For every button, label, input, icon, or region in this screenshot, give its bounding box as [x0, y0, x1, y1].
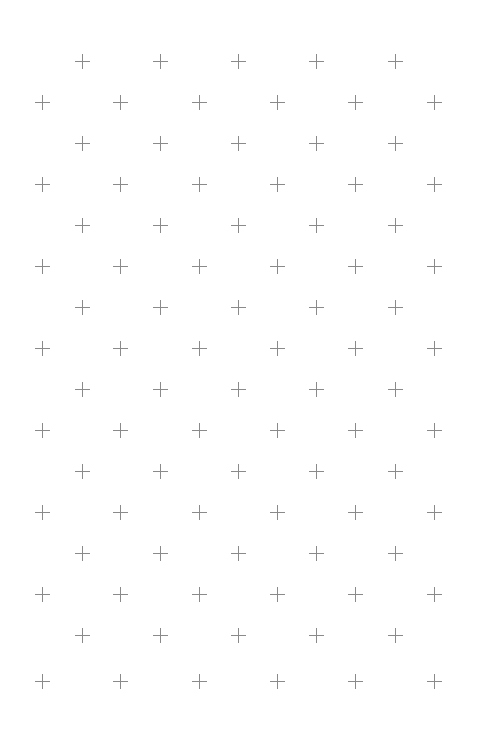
plus-icon	[388, 628, 403, 643]
plus-icon	[427, 177, 442, 192]
plus-icon	[192, 259, 207, 274]
plus-icon	[113, 341, 128, 356]
plus-icon	[270, 259, 285, 274]
plus-icon	[113, 587, 128, 602]
plus-icon	[388, 136, 403, 151]
plus-icon	[388, 382, 403, 397]
plus-icon	[427, 259, 442, 274]
plus-icon	[153, 136, 168, 151]
plus-icon	[153, 300, 168, 315]
plus-icon	[309, 300, 324, 315]
plus-icon	[35, 95, 50, 110]
plus-icon	[35, 341, 50, 356]
plus-icon	[75, 382, 90, 397]
plus-icon	[348, 674, 363, 689]
plus-icon	[231, 464, 246, 479]
plus-icon	[113, 95, 128, 110]
plus-icon	[348, 587, 363, 602]
plus-icon	[75, 546, 90, 561]
plus-icon	[348, 341, 363, 356]
plus-icon	[231, 218, 246, 233]
plus-icon	[270, 587, 285, 602]
plus-icon	[231, 54, 246, 69]
plus-icon	[113, 177, 128, 192]
plus-icon	[192, 177, 207, 192]
plus-icon	[348, 177, 363, 192]
plus-icon	[427, 423, 442, 438]
plus-icon	[35, 505, 50, 520]
plus-icon	[75, 136, 90, 151]
plus-icon	[75, 54, 90, 69]
plus-icon	[192, 505, 207, 520]
plus-icon	[270, 177, 285, 192]
plus-icon	[427, 674, 442, 689]
plus-icon	[231, 628, 246, 643]
plus-icon	[231, 382, 246, 397]
plus-icon	[388, 300, 403, 315]
plus-icon	[192, 341, 207, 356]
plus-icon	[348, 95, 363, 110]
plus-icon	[113, 505, 128, 520]
plus-icon	[309, 546, 324, 561]
plus-icon	[388, 54, 403, 69]
plus-icon	[309, 382, 324, 397]
plus-icon	[348, 259, 363, 274]
plus-icon	[153, 54, 168, 69]
plus-icon	[270, 95, 285, 110]
plus-icon	[153, 628, 168, 643]
plus-icon	[75, 300, 90, 315]
plus-icon	[231, 546, 246, 561]
plus-icon	[153, 382, 168, 397]
plus-icon	[388, 546, 403, 561]
plus-icon	[192, 587, 207, 602]
plus-icon	[113, 259, 128, 274]
plus-icon	[75, 464, 90, 479]
plus-icon	[388, 218, 403, 233]
plus-icon	[309, 464, 324, 479]
plus-icon	[192, 95, 207, 110]
plus-icon	[113, 674, 128, 689]
plus-icon	[427, 95, 442, 110]
plus-icon	[348, 505, 363, 520]
plus-icon	[75, 628, 90, 643]
plus-icon	[388, 464, 403, 479]
plus-icon	[427, 341, 442, 356]
plus-icon	[113, 423, 128, 438]
plus-icon	[427, 587, 442, 602]
plus-icon	[270, 341, 285, 356]
plus-icon	[153, 218, 168, 233]
plus-icon	[309, 136, 324, 151]
plus-icon	[35, 177, 50, 192]
plus-icon	[35, 587, 50, 602]
plus-icon	[192, 674, 207, 689]
plus-icon	[309, 628, 324, 643]
plus-icon	[309, 54, 324, 69]
plus-icon	[309, 218, 324, 233]
plus-icon	[75, 218, 90, 233]
plus-icon	[153, 464, 168, 479]
plus-icon	[270, 505, 285, 520]
plus-icon	[35, 423, 50, 438]
plus-icon	[153, 546, 168, 561]
plus-icon	[231, 300, 246, 315]
plus-icon	[427, 505, 442, 520]
plus-icon	[231, 136, 246, 151]
plus-icon	[35, 259, 50, 274]
plus-icon	[35, 674, 50, 689]
plus-icon	[348, 423, 363, 438]
plus-icon	[270, 674, 285, 689]
plus-icon	[192, 423, 207, 438]
plus-icon	[270, 423, 285, 438]
